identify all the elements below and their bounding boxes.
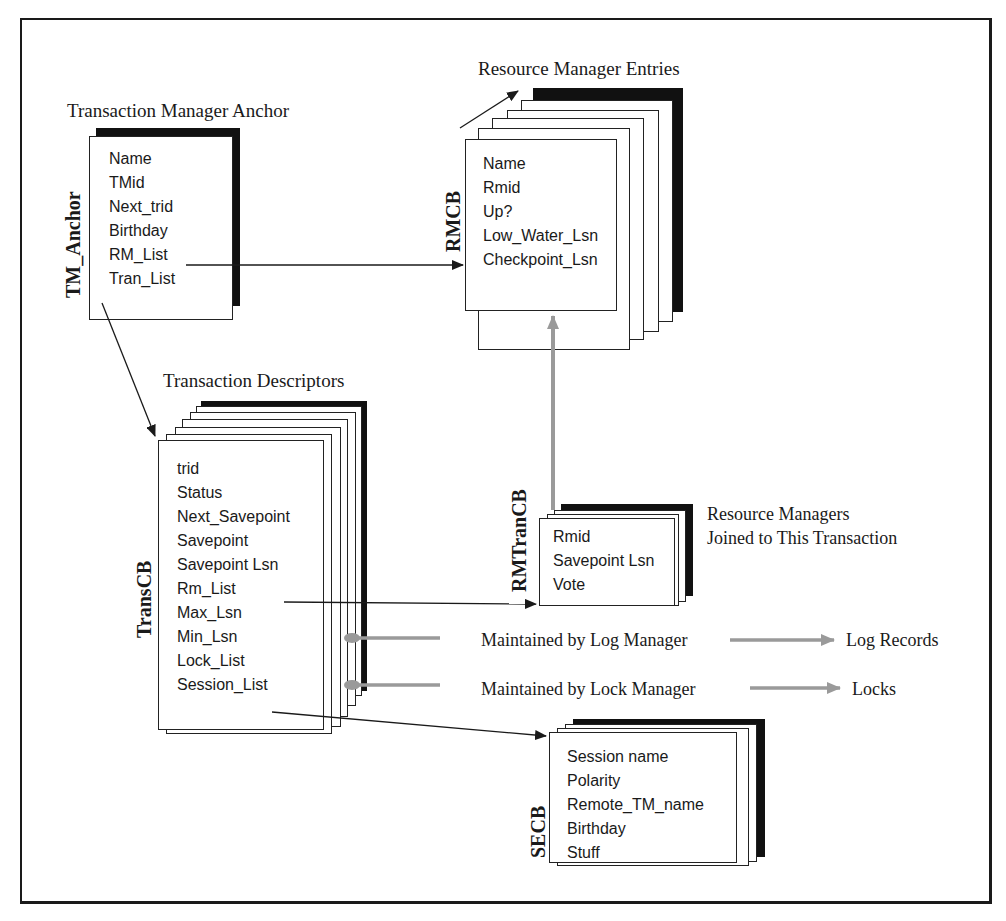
rmtrancb-title-line-1: Resource Managers — [707, 502, 897, 526]
field-status: Status — [177, 481, 290, 505]
lock-manager-note: Maintained by Lock Manager — [481, 677, 695, 701]
field-rm-list: Rm_List — [177, 577, 290, 601]
field-next-trid: Next_trid — [109, 195, 175, 219]
field-rmid: Rmid — [483, 176, 598, 200]
field-max-lsn: Max_Lsn — [177, 601, 290, 625]
field-tran-list: Tran_List — [109, 267, 175, 291]
tm-anchor-label: TM_Anchor — [62, 191, 85, 298]
transcb-title: Transaction Descriptors — [163, 370, 344, 392]
field-session-name: Session name — [567, 745, 704, 769]
field-birthday: Birthday — [109, 219, 175, 243]
secb-label: SECB — [527, 806, 550, 858]
field-name: Name — [483, 152, 598, 176]
rmtrancb-fields: Rmid Savepoint Lsn Vote — [553, 525, 654, 597]
rmcb-title: Resource Manager Entries — [478, 58, 680, 80]
rmcb-label: RMCB — [442, 191, 465, 252]
field-rmid: Rmid — [553, 525, 654, 549]
rmtrancb-label: RMTranCB — [508, 489, 531, 592]
field-rm-list: RM_List — [109, 243, 175, 267]
rmtrancb-title: Resource Managers Joined to This Transac… — [707, 502, 897, 550]
secb-card: Session name Polarity Remote_TM_name Bir… — [549, 732, 737, 863]
field-savepoint-lsn: Savepoint Lsn — [177, 553, 290, 577]
field-polarity: Polarity — [567, 769, 704, 793]
field-vote: Vote — [553, 573, 654, 597]
rmcb-card: Name Rmid Up? Low_Water_Lsn Checkpoint_L… — [465, 139, 617, 311]
field-low-water-lsn: Low_Water_Lsn — [483, 224, 598, 248]
log-manager-note: Maintained by Log Manager — [481, 628, 687, 652]
field-up: Up? — [483, 200, 598, 224]
field-checkpoint-lsn: Checkpoint_Lsn — [483, 248, 598, 272]
locks-note: Locks — [852, 677, 896, 701]
transcb-fields: trid Status Next_Savepoint Savepoint Sav… — [177, 457, 290, 697]
field-tmid: TMid — [109, 171, 175, 195]
tm-anchor-title: Transaction Manager Anchor — [67, 100, 289, 122]
rmtrancb-title-line-2: Joined to This Transaction — [707, 526, 897, 550]
field-savepoint: Savepoint — [177, 529, 290, 553]
rmtrancb-card: Rmid Savepoint Lsn Vote — [539, 518, 675, 606]
field-trid: trid — [177, 457, 290, 481]
tm-anchor-card: Name TMid Next_trid Birthday RM_List Tra… — [89, 136, 233, 320]
transcb-card: trid Status Next_Savepoint Savepoint Sav… — [158, 440, 324, 730]
field-min-lsn: Min_Lsn — [177, 625, 290, 649]
field-name: Name — [109, 147, 175, 171]
log-records-note: Log Records — [846, 628, 938, 652]
rmcb-fields: Name Rmid Up? Low_Water_Lsn Checkpoint_L… — [483, 152, 598, 272]
secb-fields: Session name Polarity Remote_TM_name Bir… — [567, 745, 704, 865]
field-next-savepoint: Next_Savepoint — [177, 505, 290, 529]
tm-anchor-fields: Name TMid Next_trid Birthday RM_List Tra… — [109, 147, 175, 291]
field-session-list: Session_List — [177, 673, 290, 697]
field-lock-list: Lock_List — [177, 649, 290, 673]
field-stuff: Stuff — [567, 841, 704, 865]
field-remote-tm-name: Remote_TM_name — [567, 793, 704, 817]
field-birthday: Birthday — [567, 817, 704, 841]
field-savepoint-lsn: Savepoint Lsn — [553, 549, 654, 573]
transcb-label: TransCB — [133, 561, 156, 638]
